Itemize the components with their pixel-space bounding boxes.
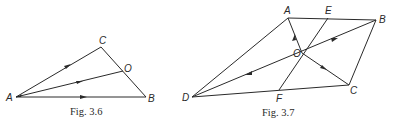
point-label-c: C bbox=[350, 85, 358, 96]
figure-3-6: A C O B Fig. 3.6 bbox=[5, 35, 155, 117]
segment-ab bbox=[288, 18, 376, 20]
diagram-canvas: A C O B Fig. 3.6 A E B O C F D Fig. 3.7 bbox=[0, 0, 393, 122]
point-label-b: B bbox=[148, 93, 155, 104]
segment-da bbox=[192, 18, 288, 97]
point-label-a: A bbox=[5, 92, 13, 103]
point-label-b: B bbox=[379, 14, 386, 25]
arrow-icon bbox=[331, 38, 338, 42]
point-label-c: C bbox=[99, 35, 107, 46]
point-label-d: D bbox=[182, 92, 189, 103]
segment-ac bbox=[16, 47, 101, 97]
point-label-f: F bbox=[276, 93, 283, 104]
point-label-o: O bbox=[293, 48, 301, 59]
arrow-icon bbox=[80, 95, 87, 99]
figure-3-7: A E B O C F D Fig. 3.7 bbox=[182, 5, 386, 118]
arrow-icon bbox=[292, 34, 296, 41]
arrow-icon bbox=[245, 71, 252, 75]
figure-caption: Fig. 3.6 bbox=[70, 106, 102, 117]
arrow-icon bbox=[76, 81, 83, 84]
figure-caption: Fig. 3.7 bbox=[262, 107, 294, 118]
point-label-e: E bbox=[325, 5, 332, 16]
point-label-o: O bbox=[124, 63, 132, 74]
segment-ao bbox=[16, 71, 123, 97]
point-label-a: A bbox=[283, 5, 291, 16]
